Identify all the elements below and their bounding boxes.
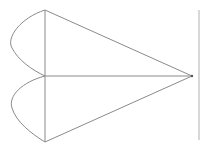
arc-upper bbox=[11, 10, 45, 76]
right-edge-bar bbox=[198, 10, 200, 140]
segment-top-apex bbox=[45, 10, 192, 76]
segment-bottom-apex bbox=[45, 76, 192, 142]
apex-point bbox=[191, 75, 193, 77]
arc-lower bbox=[11, 76, 45, 142]
geometry-diagram bbox=[0, 0, 200, 150]
